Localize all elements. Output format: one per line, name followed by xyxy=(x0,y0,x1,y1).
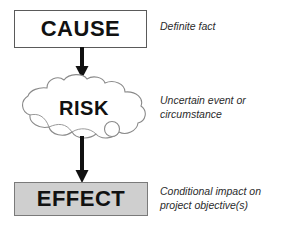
node-effect: EFFECT xyxy=(14,182,148,216)
node-risk: RISK xyxy=(14,74,150,142)
annotation-effect: Conditional impact on project objective(… xyxy=(160,184,286,212)
node-effect-label: EFFECT xyxy=(37,188,126,210)
node-cause: CAUSE xyxy=(14,10,147,48)
node-cause-label: CAUSE xyxy=(41,18,121,40)
small-cloud-bubble-icon xyxy=(105,122,120,137)
connector-risk-to-effect xyxy=(69,136,95,184)
annotation-cause: Definite fact xyxy=(160,19,284,33)
annotation-risk: Uncertain event or circumstance xyxy=(160,93,284,121)
diagram-canvas: CAUSE RISK xyxy=(0,0,287,229)
